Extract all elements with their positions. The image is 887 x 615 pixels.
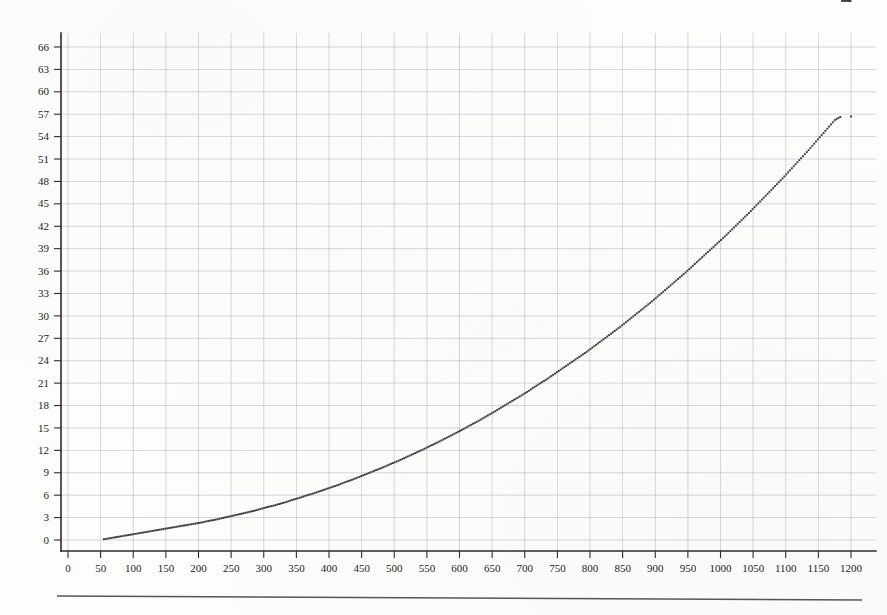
data-point xyxy=(125,534,127,536)
data-point xyxy=(187,524,189,526)
data-point xyxy=(198,522,200,524)
x-tick-label: 1050 xyxy=(742,562,765,574)
data-point xyxy=(813,143,815,145)
data-point xyxy=(759,201,761,203)
data-point xyxy=(850,116,852,118)
data-point xyxy=(662,291,664,293)
data-point xyxy=(429,445,431,447)
data-point xyxy=(362,474,364,476)
data-point xyxy=(470,424,472,426)
data-point xyxy=(416,451,418,453)
data-point xyxy=(735,225,737,227)
data-point xyxy=(274,504,276,506)
x-tick-label: 1200 xyxy=(840,562,863,574)
data-point xyxy=(260,508,262,510)
data-point xyxy=(420,450,422,452)
data-point xyxy=(457,431,459,433)
data-point xyxy=(549,376,551,378)
data-point xyxy=(673,281,675,283)
x-tick-label: 0 xyxy=(65,562,71,574)
data-point xyxy=(716,242,718,244)
x-tick-label: 800 xyxy=(582,562,599,574)
data-point xyxy=(448,436,450,438)
data-point xyxy=(122,535,124,537)
data-point xyxy=(586,351,588,353)
data-point xyxy=(345,481,347,483)
data-point xyxy=(651,300,653,302)
data-point xyxy=(789,169,791,171)
data-point xyxy=(537,384,539,386)
data-point xyxy=(591,347,593,349)
data-point xyxy=(422,449,424,451)
data-point xyxy=(299,497,301,499)
vertical-gridlines-group xyxy=(68,33,851,551)
y-tick-label: 27 xyxy=(38,332,50,344)
data-point xyxy=(500,407,502,409)
data-point xyxy=(144,531,146,533)
y-tick-label: 51 xyxy=(38,153,49,165)
data-point xyxy=(150,530,152,532)
data-point xyxy=(405,456,407,458)
x-tick-label: 750 xyxy=(549,562,566,574)
data-point xyxy=(655,297,657,299)
data-point xyxy=(435,442,437,444)
data-point xyxy=(645,305,647,307)
data-point xyxy=(722,237,724,239)
x-tick-label: 650 xyxy=(484,562,501,574)
data-point xyxy=(373,470,375,472)
data-point xyxy=(166,527,168,529)
data-point xyxy=(377,468,379,470)
data-point xyxy=(636,312,638,314)
x-tick-label: 1150 xyxy=(808,562,830,574)
data-point xyxy=(571,361,573,363)
data-point xyxy=(288,500,290,502)
data-point xyxy=(504,404,506,406)
y-tick-label: 18 xyxy=(38,399,50,411)
data-point xyxy=(534,386,536,388)
data-point xyxy=(245,512,247,514)
data-point xyxy=(304,495,306,497)
data-point xyxy=(338,484,340,486)
x-tick-label: 250 xyxy=(223,562,240,574)
data-point xyxy=(741,219,743,221)
data-point xyxy=(612,331,614,333)
y-tick-label: 33 xyxy=(38,287,50,299)
data-point xyxy=(700,258,702,260)
data-point xyxy=(239,513,241,515)
data-point xyxy=(205,520,207,522)
data-point xyxy=(843,0,845,2)
x-tick-label: 450 xyxy=(353,562,370,574)
data-point xyxy=(295,498,297,500)
x-tick-label: 600 xyxy=(451,562,468,574)
data-point xyxy=(653,299,655,301)
data-point xyxy=(649,302,651,304)
data-point xyxy=(347,480,349,482)
data-point xyxy=(798,159,800,161)
data-point xyxy=(110,537,112,539)
data-point xyxy=(664,289,666,291)
data-point xyxy=(289,500,291,502)
data-point xyxy=(379,468,381,470)
data-point xyxy=(746,214,748,216)
y-tick-label: 15 xyxy=(38,422,50,434)
data-point xyxy=(793,165,795,167)
data-point xyxy=(356,477,358,479)
x-tick-label: 400 xyxy=(321,562,338,574)
data-point xyxy=(718,241,720,243)
x-tick-label: 550 xyxy=(419,562,436,574)
data-point xyxy=(271,505,273,507)
data-point xyxy=(683,273,685,275)
y-tick-label: 45 xyxy=(38,197,50,209)
data-point xyxy=(278,503,280,505)
data-point xyxy=(539,382,541,384)
data-point xyxy=(832,121,834,123)
data-point xyxy=(782,178,784,180)
data-point xyxy=(355,477,357,479)
data-point xyxy=(291,499,293,501)
y-tick-label: 42 xyxy=(38,220,49,232)
data-point xyxy=(146,531,148,533)
data-point xyxy=(301,496,303,498)
data-point xyxy=(521,395,523,397)
y-tick-label: 3 xyxy=(44,511,50,523)
data-point xyxy=(750,210,752,212)
